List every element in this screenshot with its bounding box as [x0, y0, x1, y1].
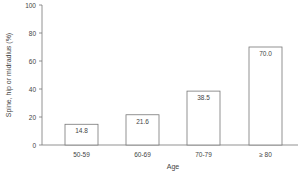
bar-value-label: 21.6 — [136, 118, 149, 125]
x-axis: 50-5960-6970-79≥ 80 — [42, 145, 298, 158]
bar-60-69: 21.6 — [126, 115, 159, 145]
bar-50-59: 14.8 — [65, 124, 98, 145]
x-tick-label: 70-79 — [195, 151, 212, 158]
bar-value-label: 38.5 — [197, 94, 210, 101]
bars: 14.821.638.570.0 — [65, 47, 282, 145]
bar-value-label: 14.8 — [75, 127, 88, 134]
x-tick-label: ≥ 80 — [259, 151, 272, 158]
chart-canvas: 020406080100 50-5960-6970-79≥ 80 14.821.… — [0, 0, 307, 180]
y-tick-label: 100 — [25, 2, 36, 9]
y-tick-label: 20 — [29, 114, 37, 121]
bar-70-79: 38.5 — [187, 91, 220, 145]
x-tick-label: 50-59 — [73, 151, 90, 158]
y-tick-label: 80 — [29, 30, 37, 37]
bar--80: 70.0 — [249, 47, 282, 145]
bar-value-label: 70.0 — [259, 50, 272, 57]
y-tick-label: 60 — [29, 58, 37, 65]
y-tick-label: 0 — [32, 142, 36, 149]
y-tick-label: 40 — [29, 86, 37, 93]
x-tick-label: 60-69 — [134, 151, 151, 158]
x-axis-label: Age — [167, 163, 180, 171]
bar-chart: 020406080100 50-5960-6970-79≥ 80 14.821.… — [0, 0, 307, 180]
y-axis-label: Spine, hip or midradius (%) — [5, 33, 13, 117]
y-axis: 020406080100 — [25, 2, 42, 149]
